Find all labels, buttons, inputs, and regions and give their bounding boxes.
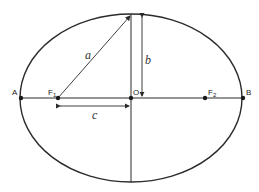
point-f1	[56, 96, 60, 100]
label-f2: F2	[208, 88, 217, 98]
point-a	[19, 96, 23, 100]
label-b-point: B	[246, 88, 251, 97]
label-a-point: A	[12, 88, 18, 97]
point-b	[241, 96, 245, 100]
label-segment-b: b	[145, 53, 151, 67]
point-f2	[203, 96, 207, 100]
label-f1: F1	[48, 88, 57, 98]
label-segment-a: a	[85, 48, 91, 62]
ellipse-diagram: A F1 O F2 B a b c	[0, 0, 259, 192]
label-o: O	[133, 88, 139, 97]
label-segment-c: c	[92, 108, 98, 122]
